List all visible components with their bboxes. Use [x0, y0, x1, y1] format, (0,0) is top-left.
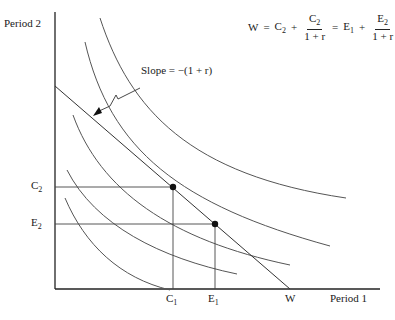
indifference-curve-1: [65, 198, 170, 290]
consumption-point: [170, 184, 176, 190]
slope-arrow: [97, 88, 140, 112]
plus-sign: +: [359, 21, 365, 33]
slope-label: Slope = −(1 + r): [141, 64, 212, 76]
indifference-curve-2: [67, 170, 237, 274]
fraction-e2: E2 1 + r: [370, 12, 395, 42]
tick-c2: C2: [31, 179, 42, 194]
fraction-c2: C2 1 + r: [302, 12, 327, 42]
indifference-curve-3: [73, 115, 290, 265]
arrowhead-icon: [93, 107, 102, 116]
y-axis-label: Period 2: [4, 17, 41, 29]
indifference-curve-5: [100, 18, 346, 198]
tick-c1: C1: [166, 292, 177, 307]
tick-e1: E1: [208, 292, 219, 307]
eq-sign: =: [332, 21, 338, 33]
tick-w: W: [285, 292, 295, 304]
endowment-point: [212, 221, 218, 227]
eq-sign: =: [263, 21, 269, 33]
eq-c2: C2: [275, 20, 286, 35]
eq-e1: E1: [343, 20, 354, 35]
tick-e2: E2: [31, 216, 42, 231]
eq-w: W: [248, 21, 258, 33]
plus-sign: +: [291, 21, 297, 33]
x-axis-label: Period 1: [330, 292, 367, 304]
wealth-equation: W = C2 + C2 1 + r = E1 + E2 1 + r: [248, 12, 395, 42]
